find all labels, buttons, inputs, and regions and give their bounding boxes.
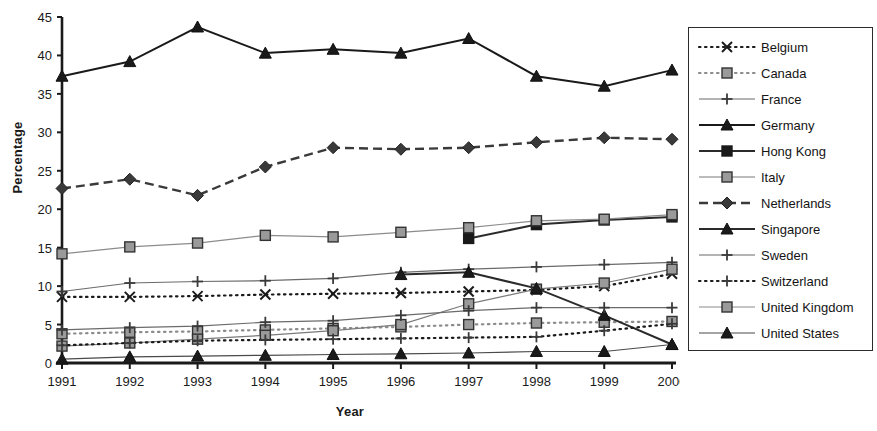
x-axis-tick-label: 1993 — [183, 374, 212, 389]
data-point-marker — [722, 276, 733, 287]
data-point-marker — [124, 278, 135, 289]
legend-swatch-square-gray-icon — [696, 62, 758, 84]
data-point-marker — [395, 143, 407, 155]
legend-swatch-square-gray-icon — [696, 296, 758, 318]
legend-item-sweden[interactable]: Sweden — [689, 242, 872, 268]
legend-item-germany[interactable]: Germany — [689, 112, 872, 138]
y-axis-tick-label: 5 — [45, 318, 52, 333]
data-point-marker — [667, 264, 677, 274]
data-point-marker — [193, 238, 203, 248]
series-france — [57, 257, 678, 297]
legend-item-italy[interactable]: Italy — [689, 164, 872, 190]
legend-item-label: Belgium — [758, 40, 808, 55]
data-point-marker — [666, 339, 678, 350]
data-point-marker — [396, 320, 406, 330]
data-point-marker — [599, 302, 610, 313]
x-axis-title: Year — [0, 404, 700, 419]
legend-item-netherlands[interactable]: Netherlands — [689, 190, 872, 216]
legend-item-label: France — [758, 92, 801, 107]
series-sweden — [57, 302, 678, 335]
data-point-marker — [531, 318, 541, 328]
data-point-marker — [531, 216, 541, 226]
series-line — [62, 215, 672, 254]
y-axis-tick-label: 40 — [38, 48, 52, 63]
data-point-marker — [259, 161, 271, 173]
x-axis-tick-label: 1994 — [251, 374, 280, 389]
data-point-marker — [125, 242, 135, 252]
legend-item-united-states[interactable]: United States — [689, 320, 872, 346]
y-axis-tick-label: 20 — [38, 202, 52, 217]
data-point-marker — [192, 189, 204, 201]
y-axis-tick-label: 35 — [38, 87, 52, 102]
data-point-marker — [530, 136, 542, 148]
data-point-marker — [531, 261, 542, 272]
legend-item-hong-kong[interactable]: Hong Kong — [689, 138, 872, 164]
data-point-marker — [598, 132, 610, 144]
data-point-marker — [396, 227, 406, 237]
legend-item-label: Italy — [758, 170, 785, 185]
data-point-marker — [260, 230, 270, 240]
data-point-marker — [530, 70, 542, 81]
data-point-marker — [666, 133, 678, 145]
data-point-marker — [192, 276, 203, 287]
line-chart-svg: 0510152025303540451991199219931994199519… — [0, 0, 680, 431]
x-axis-tick-label: 1991 — [48, 374, 77, 389]
legend-item-switzerland[interactable]: Switzerland — [689, 268, 872, 294]
x-axis-tick-label: 1995 — [319, 374, 348, 389]
legend-item-label: Switzerland — [758, 274, 828, 289]
legend-swatch-triangle-filled-icon — [696, 218, 758, 240]
data-point-marker — [722, 68, 732, 78]
legend-swatch-square-filled-icon — [696, 140, 758, 162]
data-point-marker — [599, 214, 609, 224]
data-point-marker — [722, 94, 733, 105]
data-point-marker — [599, 278, 609, 288]
legend-swatch-plus-icon — [696, 88, 758, 110]
legend-item-label: Canada — [758, 66, 807, 81]
data-point-marker — [57, 286, 68, 297]
data-point-marker — [722, 250, 733, 261]
data-point-marker — [124, 173, 136, 185]
data-point-marker — [722, 146, 732, 156]
x-axis-tick-label: 1996 — [386, 374, 415, 389]
legend-item-label: Singapore — [758, 222, 820, 237]
data-point-marker — [192, 21, 204, 32]
y-axis-tick-label: 30 — [38, 125, 52, 140]
chart-legend: BelgiumCanadaFranceGermanyHong KongItaly… — [688, 27, 873, 351]
legend-item-belgium[interactable]: Belgium — [689, 34, 872, 60]
data-point-marker — [327, 142, 339, 154]
data-point-marker — [56, 182, 68, 194]
data-point-marker — [328, 232, 338, 242]
data-point-marker — [328, 273, 339, 284]
legend-item-united-kingdom[interactable]: United Kingdom — [689, 294, 872, 320]
legend-swatch-plus-icon — [696, 244, 758, 266]
legend-item-singapore[interactable]: Singapore — [689, 216, 872, 242]
x-axis-tick-label: 1992 — [115, 374, 144, 389]
data-point-marker — [721, 197, 733, 209]
chart-page: 0510152025303540451991199219931994199519… — [0, 0, 877, 431]
legend-swatch-plus-icon — [696, 270, 758, 292]
legend-item-canada[interactable]: Canada — [689, 60, 872, 86]
data-point-marker — [531, 302, 542, 313]
data-point-marker — [328, 289, 338, 299]
y-axis-tick-label: 10 — [38, 279, 52, 294]
data-point-marker — [57, 249, 67, 259]
legend-swatch-triangle-filled-icon — [696, 322, 758, 344]
data-point-marker — [531, 331, 542, 342]
data-point-marker — [464, 320, 474, 330]
data-point-marker — [666, 64, 678, 75]
legend-swatch-square-gray-icon — [696, 166, 758, 188]
legend-item-france[interactable]: France — [689, 86, 872, 112]
y-axis-title: Percentage — [10, 108, 25, 208]
series-united-kingdom — [57, 210, 677, 259]
series-line — [62, 345, 672, 360]
data-point-marker — [464, 223, 474, 233]
y-axis-tick-label: 25 — [38, 164, 52, 179]
legend-swatch-diamond-filled-icon — [696, 192, 758, 214]
data-point-marker — [667, 302, 678, 313]
legend-item-label: Germany — [758, 118, 814, 133]
x-axis-tick-label: 1999 — [590, 374, 619, 389]
data-point-marker — [463, 332, 474, 343]
y-axis-tick-label: 0 — [45, 356, 52, 371]
series-line — [62, 262, 672, 291]
data-point-marker — [463, 142, 475, 154]
